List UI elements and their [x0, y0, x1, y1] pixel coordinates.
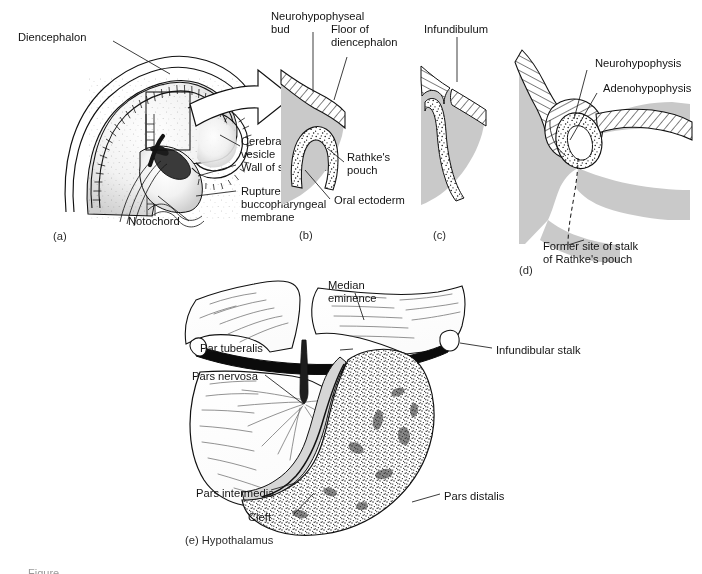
- label-cleft: Cleft: [248, 511, 272, 523]
- label-ruptured-line3: membrane: [241, 211, 294, 223]
- par-tuberalis-right: [440, 330, 459, 351]
- label-neurohypophyseal-bud-line2: bud: [271, 23, 290, 35]
- label-ruptured-line1: Ruptured: [241, 185, 287, 197]
- label-pars-distalis: Pars distalis: [444, 490, 505, 502]
- panel-c-illustration: (c): [421, 66, 486, 241]
- label-par-tuberalis: Par tuberalis: [200, 342, 263, 354]
- figure-caption-cropped: Figure: [28, 562, 228, 574]
- magnification-arrow: [190, 70, 292, 126]
- panel-d-letter: (d): [519, 264, 533, 276]
- label-former-site-line1: Former site of stalk: [543, 240, 639, 252]
- label-oral-ectoderm: Oral ectoderm: [334, 194, 405, 206]
- panel-e-illustration: (e) Hypothalamus: [185, 281, 465, 546]
- label-infundibulum: Infundibulum: [424, 23, 488, 35]
- label-rathkes-pouch-line2: pouch: [347, 164, 377, 176]
- figure-container: (a) Diencephalon Cerebral vesicle Wall o…: [0, 0, 702, 574]
- label-pars-intermedia: Pars intermedia: [196, 487, 275, 499]
- median-eminence-cleft: [300, 340, 308, 404]
- label-median-eminence-line1: Median: [328, 279, 365, 291]
- label-notochord: Notochord: [128, 215, 180, 227]
- label-floor-of-diencephalon-line1: Floor of: [331, 23, 370, 35]
- label-cerebral-vesicle-line1: Cerebral: [241, 135, 284, 147]
- label-median-eminence-line2: eminence: [328, 292, 377, 304]
- label-rathkes-pouch-line1: Rathke's: [347, 151, 391, 163]
- panel-e-letter: (e) Hypothalamus: [185, 534, 274, 546]
- label-former-site-line2: of Rathke's pouch: [543, 253, 632, 265]
- label-pars-nervosa: Pars nervosa: [192, 370, 259, 382]
- panel-c-labels: Infundibulum: [424, 23, 488, 35]
- anatomical-figure-svg: (a) Diencephalon Cerebral vesicle Wall o…: [0, 0, 702, 574]
- label-neurohypophyseal-bud-line1: Neurohypophyseal: [271, 10, 364, 22]
- label-infundibular-stalk: Infundibular stalk: [496, 344, 581, 356]
- panel-a-letter: (a): [53, 230, 67, 242]
- panel-b-letter: (b): [299, 229, 313, 241]
- label-floor-of-diencephalon-line2: diencephalon: [331, 36, 398, 48]
- label-diencephalon: Diencephalon: [18, 31, 86, 43]
- panel-c-letter: (c): [433, 229, 446, 241]
- label-neurohypophysis: Neurohypophysis: [595, 57, 682, 69]
- label-adenohypophysis: Adenohypophysis: [603, 82, 692, 94]
- label-cerebral-vesicle-line2: vesicle: [241, 148, 275, 160]
